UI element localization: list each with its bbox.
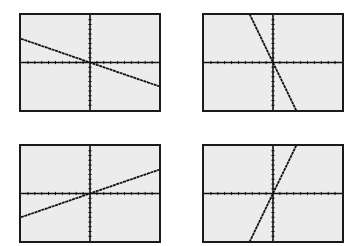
graph-panel-top-left <box>19 13 161 112</box>
graph-panel-top-right <box>202 13 344 112</box>
graph-svg <box>202 144 344 243</box>
graph-svg <box>19 144 161 243</box>
graph-svg <box>202 13 344 112</box>
graph-panel-bottom-left <box>19 144 161 243</box>
graph-panel-bottom-right <box>202 144 344 243</box>
graph-svg <box>19 13 161 112</box>
